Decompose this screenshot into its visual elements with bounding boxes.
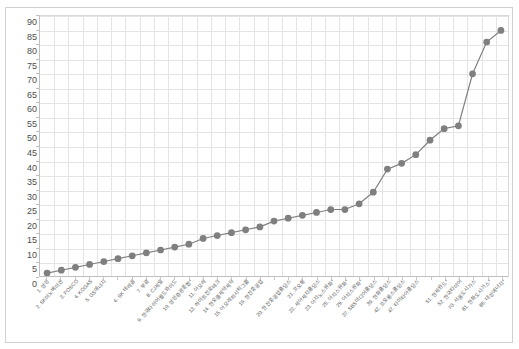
data-point-marker[interactable] (384, 166, 391, 173)
data-point-marker[interactable] (427, 137, 434, 144)
x-axis-tick (402, 277, 403, 280)
y-axis-tick-label: 85 (27, 32, 37, 41)
data-point-marker[interactable] (171, 244, 178, 251)
data-point-marker[interactable] (143, 250, 150, 257)
y-axis-tick-label: 35 (27, 178, 37, 187)
data-point-marker[interactable] (242, 226, 249, 233)
y-axis-tick (36, 146, 39, 147)
x-axis-tick (75, 277, 76, 280)
y-axis-tick-label: 20 (27, 221, 37, 230)
y-axis-tick (36, 204, 39, 205)
x-axis-tick (431, 277, 432, 280)
x-axis-tick (60, 277, 61, 280)
data-point-marker[interactable] (129, 252, 136, 259)
y-axis-tick-label: 25 (27, 207, 37, 216)
x-axis-tick (103, 277, 104, 280)
data-point-marker[interactable] (256, 224, 263, 231)
y-axis-tick-label: 40 (27, 163, 37, 172)
x-axis-tick (46, 277, 47, 280)
data-point-marker[interactable] (412, 151, 419, 158)
data-point-marker[interactable] (228, 229, 235, 236)
plot-area[interactable] (39, 15, 509, 277)
data-point-marker[interactable] (72, 264, 79, 271)
y-axis-tick (36, 161, 39, 162)
data-point-marker[interactable] (285, 215, 292, 222)
chart-object-frame[interactable]: 051015202530354045505560657075808590 1. … (5, 7, 513, 343)
y-axis-tick (36, 175, 39, 176)
x-axis-tick-label: 6. SK 테레콤 (112, 278, 136, 303)
line-series-svg (40, 16, 508, 276)
x-axis-tick (117, 277, 118, 280)
y-axis-tick (36, 88, 39, 89)
x-axis-tick (288, 277, 289, 280)
x-axis-tick (416, 277, 417, 280)
data-point-marker[interactable] (370, 189, 377, 196)
data-point-marker[interactable] (115, 255, 122, 262)
x-axis-tick (331, 277, 332, 280)
x-axis-tick (388, 277, 389, 280)
y-axis-tick-label: 70 (27, 76, 37, 85)
data-point-marker[interactable] (185, 241, 192, 248)
y-axis-tick-label: 65 (27, 90, 37, 99)
x-axis-tick (260, 277, 261, 280)
y-axis-tick-label: 55 (27, 119, 37, 128)
y-axis-tick (36, 262, 39, 263)
y-axis-tick-label: 30 (27, 192, 37, 201)
data-point-marker[interactable] (327, 206, 334, 213)
series-line (47, 30, 501, 273)
y-axis-tick-label: 10 (27, 250, 37, 259)
x-axis: 1. 삼성2. SK이노베이션3. POSCO4. KOGAS5. GS에너지6… (39, 278, 509, 349)
data-point-marker[interactable] (441, 125, 448, 132)
data-point-marker[interactable] (271, 218, 278, 225)
x-axis-tick (174, 277, 175, 280)
data-point-marker[interactable] (398, 160, 405, 167)
x-axis-tick (374, 277, 375, 280)
data-point-marker[interactable] (299, 212, 306, 219)
series-markers (44, 27, 505, 276)
y-axis-tick-label: 45 (27, 149, 37, 158)
y-axis-tick (36, 233, 39, 234)
x-axis-tick (502, 277, 503, 280)
data-point-marker[interactable] (356, 200, 363, 207)
x-axis-tick (132, 277, 133, 280)
y-axis-tick-label: 75 (27, 61, 37, 70)
y-axis-tick (36, 219, 39, 220)
y-axis-tick-label: 15 (27, 236, 37, 245)
y-axis-tick-label: 80 (27, 47, 37, 56)
data-point-marker[interactable] (86, 261, 93, 268)
data-point-marker[interactable] (313, 209, 320, 216)
x-axis-tick (189, 277, 190, 280)
y-axis-tick (36, 190, 39, 191)
data-point-marker[interactable] (342, 206, 349, 213)
y-axis-tick-label: 50 (27, 134, 37, 143)
x-axis-tick (203, 277, 204, 280)
data-point-marker[interactable] (483, 39, 490, 46)
data-point-marker[interactable] (498, 27, 505, 34)
y-axis-tick-label: 5 (32, 265, 37, 274)
x-axis-tick (146, 277, 147, 280)
data-point-marker[interactable] (455, 122, 462, 129)
clipped-header-strip: — —— ——— — —— ———— —— — ——— —— (0, 0, 519, 7)
x-axis-tick (359, 277, 360, 280)
x-axis-tick (317, 277, 318, 280)
data-point-marker[interactable] (157, 247, 164, 254)
x-axis-tick (473, 277, 474, 280)
data-point-marker[interactable] (200, 235, 207, 242)
y-axis-tick (36, 102, 39, 103)
y-axis-tick-label: 60 (27, 105, 37, 114)
x-axis-tick (89, 277, 90, 280)
data-point-marker[interactable] (469, 70, 476, 77)
y-axis-tick (36, 59, 39, 60)
y-axis-tick (36, 44, 39, 45)
x-axis-tick (302, 277, 303, 280)
data-point-marker[interactable] (58, 267, 65, 274)
y-axis: 051015202530354045505560657075808590 (11, 15, 39, 277)
y-axis-tick (36, 277, 39, 278)
y-axis-tick (36, 15, 39, 16)
data-point-marker[interactable] (100, 258, 107, 265)
x-axis-tick (459, 277, 460, 280)
data-point-marker[interactable] (214, 232, 221, 239)
data-point-marker[interactable] (44, 270, 51, 276)
x-axis-tick (345, 277, 346, 280)
y-axis-tick (36, 248, 39, 249)
